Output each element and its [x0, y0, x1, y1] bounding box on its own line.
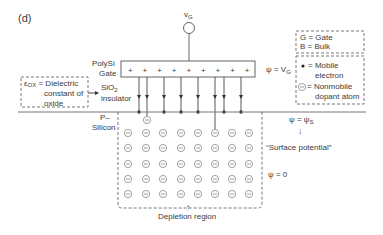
dopant-ion-icon — [245, 144, 252, 151]
depletion-label: Depletion region — [158, 212, 216, 221]
dopant-ion-icon — [228, 144, 235, 151]
field-arrowhead-icon — [179, 95, 183, 99]
dopant-ion-icon — [159, 175, 166, 182]
dopant-ion-icon — [124, 190, 131, 197]
plus-charge: + — [143, 66, 148, 75]
field-arrowhead-icon — [196, 95, 200, 99]
dopant-ion-icon — [228, 175, 235, 182]
gate-label-line2: Gate — [99, 69, 117, 78]
dopant-ion-icon — [228, 129, 235, 136]
legend-electron-line1: = Mobile — [308, 61, 339, 70]
dopant-ion-icon — [177, 160, 184, 167]
dopant-ion-icon — [124, 144, 131, 151]
dopant-ion-icon — [142, 160, 149, 167]
dielectric-note-line1: εOX = Dielectric — [24, 79, 78, 88]
legend-ion-line2: dopant atom — [315, 92, 360, 101]
dopant-ion-icon — [177, 144, 184, 151]
dopant-ion-icon — [194, 144, 201, 151]
dopant-ion-icon — [211, 175, 218, 182]
dopant-ion-icon — [245, 175, 252, 182]
dopant-ion-icon — [142, 144, 149, 151]
legend: G = Gate B = Bulk = Mobile electron = No… — [296, 31, 364, 104]
legend-electron-line2: electron — [315, 71, 343, 80]
dopant-ion-icon — [194, 190, 201, 197]
dopant-ion-icon — [228, 160, 235, 167]
dopant-ion-icon — [177, 190, 184, 197]
insulator-label-line2: insulator — [101, 94, 132, 103]
gate-terminal: vG — [184, 10, 195, 61]
plus-charge: + — [186, 66, 191, 75]
dopant-ion-icon — [177, 129, 184, 136]
substrate-label-line1: P– — [100, 113, 110, 122]
dopant-ion-icon — [124, 129, 131, 136]
dopant-ion-icon — [211, 160, 218, 167]
surface-arrow-icon: ↓ — [298, 127, 302, 136]
dopant-ion-icon — [177, 175, 184, 182]
panel-label: (d) — [18, 12, 31, 24]
dopant-ion-icon — [159, 129, 166, 136]
dielectric-note: εOX = Dielectric constant of oxide — [21, 77, 99, 108]
field-arrowhead-icon — [162, 95, 166, 99]
dopant-ion-icon — [142, 190, 149, 197]
dopant-ion-icon — [194, 160, 201, 167]
dopant-ion-icon — [142, 175, 149, 182]
surface-potential-label: ψ = ψS — [289, 115, 314, 125]
plus-charge: + — [172, 66, 177, 75]
dopant-ion-icon — [298, 83, 305, 90]
legend-ion-line1: = Nonmobile — [307, 82, 353, 91]
gate-potential-label: ψ = VG — [266, 65, 291, 75]
substrate-label-line2: Silicon — [92, 123, 116, 132]
terminal-circle-icon — [184, 23, 195, 34]
bulk-potential-label: ψ = 0 — [268, 170, 288, 179]
positive-charges: +++++++++ — [128, 66, 250, 75]
dopant-ion-icon — [142, 129, 149, 136]
plus-charge: + — [216, 66, 221, 75]
arrowhead-icon — [95, 91, 99, 95]
dopant-ions — [124, 116, 252, 197]
dopant-ion-icon — [245, 190, 252, 197]
mos-capacitor-diagram: (d) vG PolySi Gate +++++++++ ψ = VG εOX … — [0, 0, 383, 235]
gate-label-line1: PolySi — [92, 59, 115, 68]
depletion-region-boundary — [118, 112, 262, 208]
field-arrowhead-icon — [137, 95, 141, 99]
field-arrowhead-icon — [213, 95, 217, 99]
plus-charge: + — [245, 66, 250, 75]
dopant-ion-icon — [159, 144, 166, 151]
terminal-label: vG — [184, 10, 193, 20]
dopant-ion-icon — [159, 160, 166, 167]
dopant-ion-icon — [194, 129, 201, 136]
field-arrowhead-icon — [239, 95, 243, 99]
dopant-ion-icon — [194, 175, 201, 182]
dopant-ion-icon — [124, 160, 131, 167]
dielectric-note-line2: constant of — [44, 89, 84, 98]
dopant-ion-icon — [211, 144, 218, 151]
dopant-ion-icon — [159, 190, 166, 197]
field-arrowhead-icon — [222, 95, 226, 99]
plus-charge: + — [157, 66, 162, 75]
field-arrowhead-icon — [145, 95, 149, 99]
plus-charge: + — [230, 66, 235, 75]
plus-charge: + — [201, 66, 206, 75]
dopant-ion-icon — [228, 190, 235, 197]
dopant-ion-icon — [245, 160, 252, 167]
dopant-ion-icon — [143, 116, 150, 123]
electron-dot-icon — [301, 64, 304, 67]
dielectric-note-line3: oxide — [44, 99, 64, 108]
electric-field-lines — [137, 77, 243, 129]
dopant-ion-icon — [211, 190, 218, 197]
plus-charge: + — [128, 66, 133, 75]
dopant-ion-icon — [124, 175, 131, 182]
depletion-arrow-icon: ↑ — [186, 203, 190, 212]
legend-gate: G = Gate — [300, 33, 333, 42]
polysi-gate: PolySi Gate +++++++++ ψ = VG — [92, 59, 291, 78]
dopant-ion-icon — [211, 129, 218, 136]
legend-bulk: B = Bulk — [300, 42, 331, 51]
insulator-label-line1: SiO2 — [101, 83, 118, 93]
surface-potential-caption: “Surface potential” — [266, 143, 332, 152]
dopant-ion-icon — [245, 129, 252, 136]
